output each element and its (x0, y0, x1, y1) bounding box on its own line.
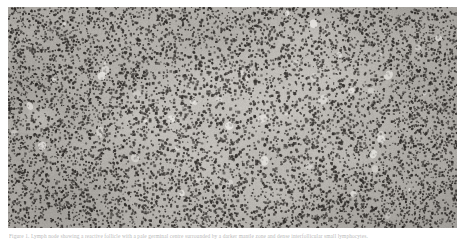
histology-micrograph-image (8, 7, 457, 228)
figure-root: Figure 1. Lymph node showing a reactive … (0, 0, 466, 243)
figure-caption: Figure 1. Lymph node showing a reactive … (9, 232, 459, 241)
micrograph-plate (8, 7, 457, 228)
